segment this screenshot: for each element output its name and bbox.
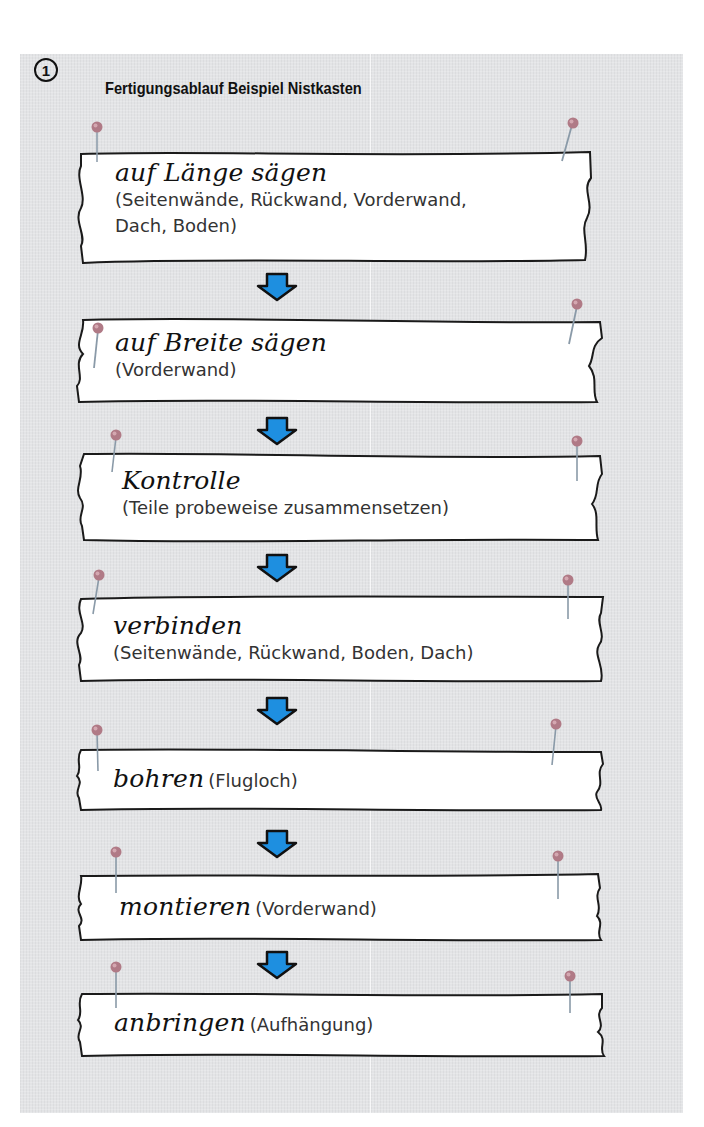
pushpin-icon — [89, 723, 129, 793]
step-detail: (Seitenwände, Rückwand, Vorderwand, — [115, 187, 575, 213]
step-detail: (Aufhängung) — [250, 1014, 374, 1035]
step-card-3: Kontrolle (Teile probeweise zusammensetz… — [74, 450, 606, 542]
figure-number-badge: 1 — [34, 58, 58, 82]
step-heading: auf Breite sägen — [115, 328, 585, 357]
pushpin-icon — [90, 320, 130, 390]
pushpin-icon — [570, 434, 610, 504]
step-card-4: verbinden (Seitenwände, Rückwand, Boden,… — [73, 593, 608, 684]
pushpin-icon — [108, 428, 148, 498]
diagram-title: Fertigungsablauf Beispiel Nistkasten — [105, 79, 362, 99]
pushpin-icon — [562, 298, 602, 368]
down-arrow-icon — [256, 553, 298, 583]
down-arrow-icon — [256, 416, 298, 446]
pushpin-icon — [108, 960, 148, 1030]
step-heading: verbinden — [113, 611, 588, 640]
pushpin-icon — [90, 568, 130, 638]
step-card-2: auf Breite sägen (Vorderwand) — [75, 316, 605, 405]
pushpin-icon — [551, 849, 591, 919]
step-detail: (Seitenwände, Rückwand, Boden, Dach) — [113, 640, 588, 666]
pushpin-icon — [90, 120, 130, 190]
pushpin-icon — [547, 717, 587, 787]
step-detail: (Vorderwand) — [115, 357, 585, 383]
step-detail-continued: Dach, Boden) — [115, 213, 575, 239]
step-heading: auf Länge sägen — [115, 158, 575, 187]
down-arrow-icon — [256, 696, 298, 726]
pushpin-icon — [563, 969, 603, 1039]
down-arrow-icon — [256, 829, 298, 859]
down-arrow-icon — [256, 950, 298, 980]
step-card-1: auf Länge sägen (Seitenwände, Rückwand, … — [75, 148, 595, 265]
step-detail: (Vorderwand) — [255, 898, 377, 919]
figure-number: 1 — [42, 62, 50, 79]
step-card-7: anbringen(Aufhängung) — [74, 990, 609, 1060]
step-card-6: montieren(Vorderwand) — [73, 872, 608, 942]
step-detail: (Flugloch) — [208, 770, 298, 791]
pushpin-icon — [108, 845, 148, 915]
step-card-5: bohren(Flugloch) — [73, 746, 608, 812]
down-arrow-icon — [256, 272, 298, 302]
step-heading: Kontrolle — [122, 466, 586, 495]
step-detail: (Teile probeweise zusammensetzen) — [122, 495, 586, 521]
pushpin-icon — [561, 573, 601, 643]
pushpin-icon — [555, 115, 595, 185]
